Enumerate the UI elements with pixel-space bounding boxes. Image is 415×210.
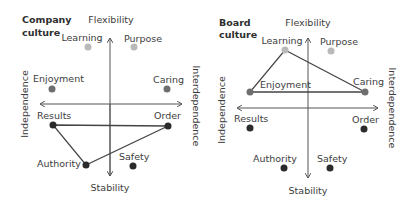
label-safety: Safety	[119, 151, 150, 162]
label-authority: Authority	[37, 158, 81, 169]
point-results	[247, 125, 254, 132]
chart-title-line2: culture	[219, 29, 257, 40]
point-enjoyment	[247, 89, 254, 96]
label-purpose: Purpose	[320, 36, 358, 47]
point-caring	[164, 86, 171, 93]
label-learning: Learning	[61, 32, 102, 43]
point-purpose	[131, 44, 138, 51]
point-authority	[281, 165, 288, 172]
label-caring: Caring	[353, 76, 384, 87]
label-enjoyment: Enjoyment	[260, 79, 311, 90]
label-order: Order	[154, 110, 181, 121]
label-purpose: Purpose	[124, 33, 162, 44]
point-caring	[362, 89, 369, 96]
axis-label-independence: Independence	[19, 70, 30, 138]
point-authority	[83, 162, 90, 169]
axis-label-interdependence: Interdependence	[191, 66, 202, 147]
label-order: Order	[352, 114, 379, 125]
chart-title-line1: Board	[219, 17, 251, 28]
label-authority: Authority	[253, 153, 297, 164]
culture-diagrams: Company culture Flexibility Stability In…	[0, 0, 415, 210]
axis-label-stability: Stability	[289, 185, 328, 196]
label-results: Results	[234, 113, 268, 124]
board-culture-chart: Board culture Flexibility Stability Inde…	[216, 17, 398, 196]
point-learning	[282, 47, 289, 54]
point-order	[165, 123, 172, 130]
point-order	[361, 126, 368, 133]
axis-label-stability: Stability	[91, 182, 130, 193]
label-learning: Learning	[261, 35, 302, 46]
axis-label-independence: Independence	[216, 76, 227, 144]
axis-label-flexibility: Flexibility	[88, 14, 134, 25]
label-enjoyment: Enjoyment	[33, 73, 84, 84]
point-learning	[85, 44, 92, 51]
chart-title-line1: Company	[22, 14, 72, 25]
label-caring: Caring	[153, 74, 184, 85]
axis-label-flexibility: Flexibility	[285, 17, 331, 28]
point-safety	[327, 165, 334, 172]
point-purpose	[328, 48, 335, 55]
axis-label-interdependence: Interdependence	[387, 68, 398, 149]
label-results: Results	[37, 110, 71, 121]
point-safety	[130, 163, 137, 170]
point-results	[50, 122, 57, 129]
company-culture-chart: Company culture Flexibility Stability In…	[19, 14, 202, 193]
chart-title-line2: culture	[22, 27, 60, 38]
point-enjoyment	[49, 86, 56, 93]
label-safety: Safety	[317, 153, 348, 164]
